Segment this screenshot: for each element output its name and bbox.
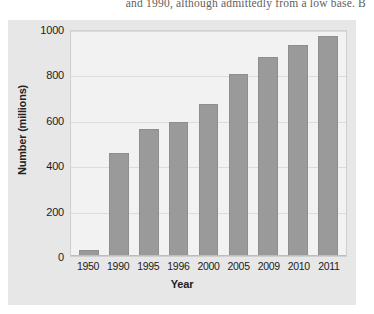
- bar[interactable]: [288, 45, 308, 256]
- bar-chart-figure: Number (millions) 02004006008001000 1950…: [8, 20, 356, 305]
- x-tick-label: 1995: [133, 260, 163, 272]
- bar-series: [71, 31, 346, 256]
- x-tick-label: 2009: [254, 260, 284, 272]
- bar[interactable]: [318, 36, 338, 256]
- y-tick-label: 600: [14, 115, 64, 127]
- y-tick-label: 800: [14, 69, 64, 81]
- bar[interactable]: [258, 57, 278, 256]
- bar-slot: [313, 31, 343, 256]
- bar-slot: [104, 31, 134, 256]
- x-axis-tick-labels: 195019901995199620002005200920102011: [70, 260, 347, 272]
- y-tick-label: 0: [14, 251, 64, 263]
- x-tick-label: 2005: [224, 260, 254, 272]
- x-tick-label: 1950: [73, 260, 103, 272]
- bar[interactable]: [229, 74, 249, 256]
- bar-slot: [253, 31, 283, 256]
- bar[interactable]: [139, 129, 159, 256]
- x-tick-label: 2010: [284, 260, 314, 272]
- y-tick-label: 200: [14, 206, 64, 218]
- x-tick-label: 2011: [314, 260, 344, 272]
- bar[interactable]: [109, 153, 129, 256]
- bar[interactable]: [199, 104, 219, 256]
- y-tick-label: 400: [14, 160, 64, 172]
- x-tick-label: 1996: [163, 260, 193, 272]
- y-axis-tick-labels: 02004006008001000: [14, 20, 64, 265]
- bar-slot: [194, 31, 224, 256]
- x-tick-label: 1990: [103, 260, 133, 272]
- x-axis-label: Year: [8, 278, 356, 290]
- bar-slot: [164, 31, 194, 256]
- bar-slot: [74, 31, 104, 256]
- bar-slot: [283, 31, 313, 256]
- x-tick-label: 2000: [193, 260, 223, 272]
- bar[interactable]: [169, 122, 189, 256]
- bar-slot: [134, 31, 164, 256]
- plot-area: [70, 30, 347, 257]
- y-tick-label: 1000: [14, 24, 64, 36]
- x-axis-baseline: [71, 255, 346, 256]
- page-body-text: and 1990, although admittedly from a low…: [0, 0, 374, 11]
- bar-slot: [223, 31, 253, 256]
